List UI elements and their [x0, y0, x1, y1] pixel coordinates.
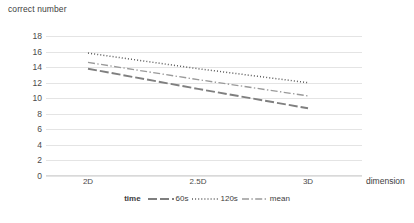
legend-label: mean: [270, 194, 290, 203]
x-axis-tick-label: 2.5D: [190, 177, 207, 186]
legend: time 60s120smean: [0, 194, 414, 203]
y-axis-tick-label: 6: [6, 124, 42, 134]
legend-item-120s[interactable]: 120s: [192, 194, 237, 203]
y-axis-tick-label: 8: [6, 109, 42, 119]
y-axis-tick-label: 10: [6, 93, 42, 103]
legend-item-mean[interactable]: mean: [242, 194, 290, 203]
series-line-120s: [88, 53, 308, 83]
series-layer: [46, 36, 362, 176]
x-axis-tick-label: 2D: [83, 177, 93, 186]
line-dotted-icon: [192, 195, 218, 203]
y-axis-tick-label: 12: [6, 78, 42, 88]
legend-item-60s[interactable]: 60s: [148, 194, 189, 203]
y-axis-tick-label: 4: [6, 140, 42, 150]
legend-title: time: [124, 194, 140, 203]
y-axis-tick-label: 18: [6, 31, 42, 41]
x-axis-tick-label: 3D: [303, 177, 313, 186]
y-axis-tick-label: 0: [6, 171, 42, 181]
plot-area: [46, 36, 362, 176]
line-chart: correct number 024681012141618 2D2.5D3D …: [0, 0, 414, 223]
y-axis-title: correct number: [8, 4, 67, 14]
y-axis-tick-label: 2: [6, 155, 42, 165]
line-dash-long-icon: [148, 195, 174, 203]
x-axis-title: dimension: [366, 176, 405, 186]
series-line-60s: [88, 69, 308, 109]
x-axis-tick-labels: 2D2.5D3D: [46, 177, 362, 191]
line-dash-dot-icon: [242, 195, 268, 203]
y-axis-tick-labels: 024681012141618: [0, 36, 42, 176]
y-axis-tick-label: 16: [6, 47, 42, 57]
y-axis-tick-label: 14: [6, 62, 42, 72]
legend-label: 120s: [220, 194, 237, 203]
legend-label: 60s: [176, 194, 189, 203]
series-line-mean: [88, 62, 308, 96]
